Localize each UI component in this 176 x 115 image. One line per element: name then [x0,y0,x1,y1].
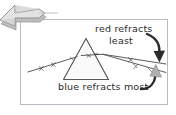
figure-canvas [0,0,176,115]
label-red-refracts-least: least [109,35,133,46]
dispersion-figure: red refracts least blue refracts most [0,0,176,115]
label-red-refracts: red refracts [95,23,153,34]
label-blue-refracts-most: blue refracts most [58,81,148,92]
